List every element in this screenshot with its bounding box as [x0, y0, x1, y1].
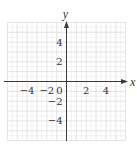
x-tick-label: −2	[39, 85, 54, 96]
x-tick-label: 2	[83, 85, 89, 96]
x-tick-label: 0	[56, 85, 62, 96]
y-tick-label: 2	[56, 56, 62, 67]
y-tick-label: −2	[48, 96, 63, 107]
x-tick-label: −4	[20, 85, 35, 96]
x-axis-label: x	[129, 75, 136, 89]
y-tick-label: −4	[48, 115, 63, 126]
x-tick-label: 4	[103, 85, 109, 96]
y-tick-label: 4	[56, 37, 62, 48]
x-axis-arrow-icon	[121, 79, 128, 84]
axes	[4, 21, 128, 141]
coordinate-grid: −4−202442−2−4 x y	[0, 0, 137, 153]
y-axis-label: y	[62, 7, 69, 21]
